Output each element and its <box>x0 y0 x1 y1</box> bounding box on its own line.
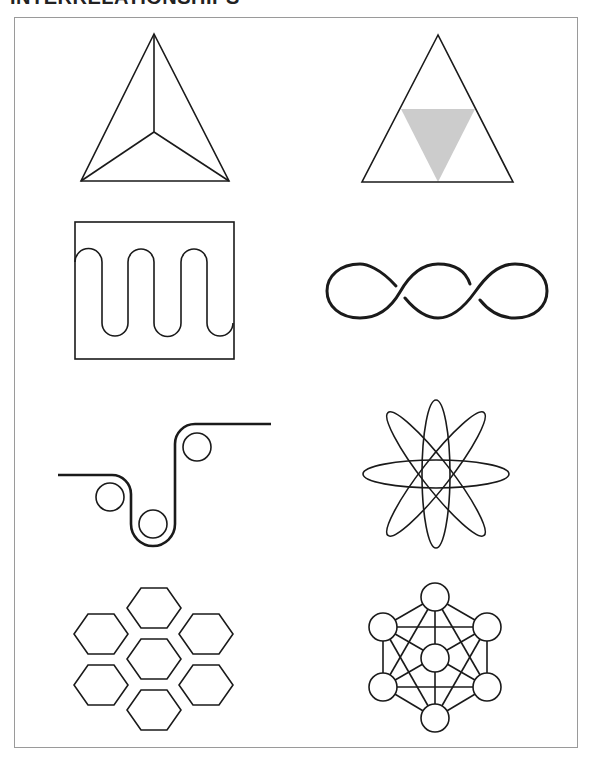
triangle-with-center-lines <box>81 34 229 181</box>
atom-orbits <box>363 400 509 548</box>
triangle-with-shaded-inverted-triangle <box>362 35 513 182</box>
serpentine-in-box <box>75 222 234 359</box>
connected-node-network <box>369 583 501 732</box>
belt-over-three-pulleys <box>58 424 271 546</box>
figures-canvas <box>0 0 591 760</box>
three-loop-chain <box>327 264 547 318</box>
shaded-inverted-triangle <box>401 109 475 182</box>
hexagon-cluster <box>74 588 233 730</box>
